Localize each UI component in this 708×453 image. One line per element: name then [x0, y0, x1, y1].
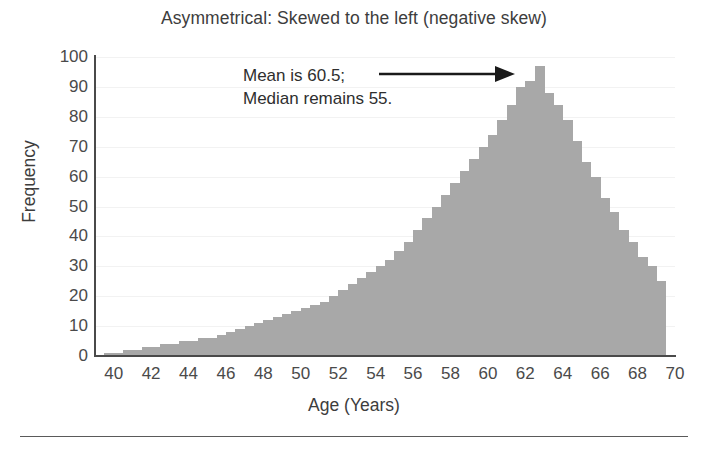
x-axis-tick-label: 62: [505, 364, 545, 384]
y-axis-tick-label: 0: [44, 346, 88, 366]
annotation-line-2: Median remains 55.: [243, 87, 392, 110]
x-axis-tick-label: 64: [543, 364, 583, 384]
x-axis-tick-label: 54: [356, 364, 396, 384]
right-arrow-icon: [377, 63, 517, 85]
histogram-bar: [656, 281, 666, 356]
x-axis-tick-label: 70: [655, 364, 695, 384]
y-axis-line: [94, 55, 96, 357]
y-axis-tick-label: 50: [44, 197, 88, 217]
bottom-divider: [20, 436, 688, 437]
x-axis-tick-label: 44: [169, 364, 209, 384]
x-axis-tick-label: 60: [468, 364, 508, 384]
x-axis-title: Age (Years): [0, 395, 708, 416]
y-axis-tick-label: 70: [44, 137, 88, 157]
figure: Asymmetrical: Skewed to the left (negati…: [0, 0, 708, 453]
y-axis-tick-label: 100: [44, 47, 88, 67]
y-axis-tick-label: 40: [44, 226, 88, 246]
y-axis-tick-label: 20: [44, 286, 88, 306]
x-axis-tick-label: 56: [393, 364, 433, 384]
x-axis-tick-label: 48: [243, 364, 283, 384]
y-axis-tick-label: 60: [44, 167, 88, 187]
y-axis-tick-label: 30: [44, 256, 88, 276]
y-axis-tick-label: 10: [44, 316, 88, 336]
x-axis-tick-label: 50: [281, 364, 321, 384]
x-axis-tick-label: 52: [318, 364, 358, 384]
x-axis-tick-label: 58: [430, 364, 470, 384]
x-axis-tick-label: 42: [131, 364, 171, 384]
annotation-text: Mean is 60.5; Median remains 55.: [243, 64, 392, 110]
x-axis-tick-label: 66: [580, 364, 620, 384]
x-axis-line: [94, 355, 676, 357]
y-axis-tick-label: 90: [44, 77, 88, 97]
x-axis-tick-label: 46: [206, 364, 246, 384]
x-axis-tick-labels: 40424446485052545658606264666870: [0, 364, 708, 388]
y-axis-title: Frequency: [19, 112, 40, 252]
annotation-line-1: Mean is 60.5;: [243, 64, 392, 87]
page-title: Asymmetrical: Skewed to the left (negati…: [0, 8, 708, 29]
y-axis-tick-label: 80: [44, 107, 88, 127]
x-axis-tick-label: 40: [94, 364, 134, 384]
x-axis-tick-label: 68: [618, 364, 658, 384]
